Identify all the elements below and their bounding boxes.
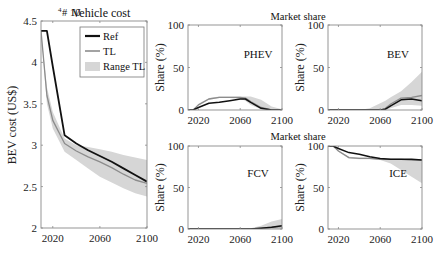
y-tick-label: 2.5 xyxy=(23,181,37,193)
panel-label-phev: PHEV xyxy=(244,48,273,60)
x-tick-label: 2020 xyxy=(42,232,65,244)
fcv-share-chart: 202020602100050100Share (%)FCV xyxy=(153,140,294,245)
x-tick-label: 2100 xyxy=(271,233,294,245)
y-axis-label-share: Share (%) xyxy=(153,43,167,91)
y-tick-label: 50 xyxy=(313,62,325,74)
y-tick-label: 4 xyxy=(32,56,38,68)
x-tick-label: 2100 xyxy=(411,114,434,126)
y-axis-label-share: Share (%) xyxy=(293,43,307,91)
legend-tl-label: TL xyxy=(103,46,116,57)
x-tick-label: 2100 xyxy=(271,114,294,126)
y-tick-label: 3.5 xyxy=(23,98,37,110)
x-tick-label: 2020 xyxy=(327,114,350,126)
y-tick-label: 3 xyxy=(32,139,38,151)
group-title-market-share-top: Market share xyxy=(270,11,325,22)
x-tick-label: 2100 xyxy=(136,232,159,244)
y-tick-label: 100 xyxy=(168,140,185,152)
y-axis-label-bev-cost: BEV cost (US$) xyxy=(5,86,19,164)
y-axis-label-share: Share (%) xyxy=(153,163,167,211)
chart-title-vehicle-cost: Vehicle cost xyxy=(72,6,131,20)
panel-label-ice: ICE xyxy=(389,167,407,179)
y-tick-label: 0 xyxy=(319,104,325,116)
y-tick-label: 4.5 xyxy=(23,15,37,27)
y-tick-label: 2 xyxy=(32,222,38,234)
legend: Ref TL Range TL xyxy=(80,27,145,77)
y-tick-label: 0 xyxy=(179,104,185,116)
y-tick-label: 100 xyxy=(168,19,185,31)
range-tl-band xyxy=(328,72,422,110)
x-tick-label: 2020 xyxy=(187,114,210,126)
ice-share-chart: 202020602100050100Share (%)ICE xyxy=(293,140,434,245)
axes-box xyxy=(188,146,282,229)
y-axis-label-share: Share (%) xyxy=(293,163,307,211)
y-tick-label: 0 xyxy=(179,223,185,235)
group-title-market-share-bottom: Market share xyxy=(270,131,325,142)
x-tick-label: 2060 xyxy=(89,232,112,244)
legend-ref-label: Ref xyxy=(103,31,119,42)
y-tick-label: 50 xyxy=(173,182,185,194)
x-tick-label: 2020 xyxy=(187,233,210,245)
legend-range-label: Range TL xyxy=(103,61,145,72)
x-tick-label: 2060 xyxy=(369,114,392,126)
x-tick-label: 2100 xyxy=(411,233,434,245)
exponent-power: 4 xyxy=(58,6,62,14)
x-tick-label: 2060 xyxy=(229,114,252,126)
range-tl-band xyxy=(328,146,422,183)
panel-label-bev: BEV xyxy=(387,48,409,60)
figure-canvas: 20202060210022.533.544.5 # 10 4 Vehicle … xyxy=(0,0,439,257)
x-tick-label: 2060 xyxy=(369,233,392,245)
y-tick-label: 50 xyxy=(313,182,325,194)
y-tick-label: 0 xyxy=(319,223,325,235)
x-tick-label: 2060 xyxy=(229,233,252,245)
phev-share-chart: 202020602100050100Share (%)PHEV xyxy=(153,19,294,126)
y-tick-label: 50 xyxy=(173,62,185,74)
legend-range-swatch xyxy=(85,62,100,71)
x-tick-label: 2020 xyxy=(327,233,350,245)
bev-share-chart: 202020602100050100Share (%)BEV xyxy=(293,19,434,126)
panel-label-fcv: FCV xyxy=(247,167,268,179)
